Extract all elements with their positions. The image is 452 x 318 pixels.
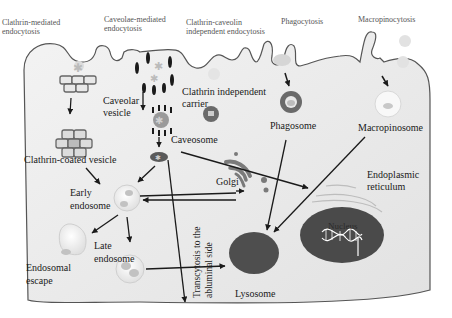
label-clathrin-coated-vesicle: Clathrin-coated vesicle xyxy=(24,154,117,165)
header-macropinocytosis: Macropinocytosis xyxy=(358,15,415,24)
svg-text:abluminal side: abluminal side xyxy=(204,242,214,298)
label-golgi: Golgi xyxy=(216,176,239,187)
label-endoplasmic-reticulum: Endoplasmic xyxy=(367,169,420,180)
macropinosome xyxy=(375,91,401,117)
svg-text:Transcytosis to the: Transcytosis to the xyxy=(192,227,202,298)
label-clathrin-independent-carrier-2: carrier xyxy=(182,98,209,109)
header-clathrin-mediated: Clathrin-mediated xyxy=(2,18,60,27)
label-early-endosome-2: endosome xyxy=(70,200,111,211)
label-late-endosome-2: endosome xyxy=(94,253,135,264)
header-clathrin-caveolin-2: independent endocytosis xyxy=(186,27,265,36)
header-clathrin-caveolin: Clathrin-caveolin xyxy=(186,18,242,27)
label-caveolar-vesicle: Caveolar xyxy=(103,95,140,106)
label-lysosome: Lysosome xyxy=(235,288,276,299)
pathway-headers: Clathrin-mediated endocytosis Caveolae-m… xyxy=(2,15,415,36)
svg-text:✱: ✱ xyxy=(73,61,83,75)
label-caveolar-vesicle-2: vesicle xyxy=(103,107,131,118)
lysosome xyxy=(229,232,279,274)
clathrin-coated-vesicle xyxy=(56,130,92,157)
label-endosomal-escape: Endosomal xyxy=(26,262,71,273)
header-clathrin-mediated-2: endocytosis xyxy=(2,27,40,36)
nucleus xyxy=(300,207,384,263)
cell-membrane xyxy=(24,32,430,303)
label-early-endosome: Early xyxy=(70,187,92,198)
label-late-endosome: Late xyxy=(94,240,112,251)
label-endoplasmic-reticulum-2: reticulum xyxy=(367,181,406,192)
label-clathrin-independent-carrier: Clathrin independent xyxy=(182,86,266,97)
header-caveolae-mediated: Caveolae-mediated xyxy=(104,15,166,24)
label-macropinosome: Macropinosome xyxy=(358,122,424,133)
early-endosome xyxy=(114,185,140,211)
svg-text:✱: ✱ xyxy=(155,115,163,126)
endocytosis-pathways-diagram: Clathrin-mediated endocytosis Caveolae-m… xyxy=(0,0,452,318)
label-endosomal-escape-2: escape xyxy=(26,275,53,286)
phagosome xyxy=(280,91,302,113)
svg-text:✱: ✱ xyxy=(155,154,161,162)
label-phagosome: Phagosome xyxy=(270,120,317,131)
label-nucleus: Nucleus xyxy=(328,221,358,231)
header-caveolae-mediated-2: endocytosis xyxy=(104,24,142,33)
macropinocytosis-particles xyxy=(397,35,411,68)
label-caveosome: Caveosome xyxy=(171,134,218,145)
svg-text:✱: ✱ xyxy=(150,73,158,84)
caveosome-body: ✱ xyxy=(150,152,168,162)
phagocytic-particle xyxy=(273,54,291,66)
svg-text:✱: ✱ xyxy=(154,60,163,72)
header-phagocytosis: Phagocytosis xyxy=(281,17,323,26)
